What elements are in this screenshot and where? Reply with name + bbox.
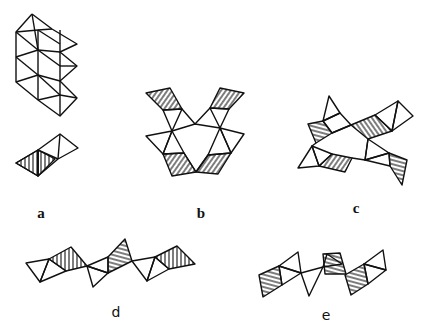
polyhedra-diagram: a b [0, 0, 424, 332]
label-a: a [37, 205, 45, 221]
panel-a-tetrahedra-pair [16, 134, 78, 176]
panel-c-ring [298, 96, 413, 185]
panel-b-ring [146, 88, 244, 176]
panel-d-chain [26, 239, 195, 287]
label-c: c [353, 200, 360, 216]
label-b: b [197, 205, 205, 221]
panel-a-octahedra [16, 14, 77, 116]
label-d: d [112, 304, 121, 320]
panel-e-chain [259, 250, 386, 297]
label-e: e [322, 307, 331, 323]
